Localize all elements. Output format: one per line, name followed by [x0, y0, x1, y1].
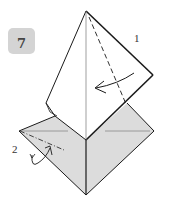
fold-label-2: 2	[12, 143, 18, 155]
fold-label-1: 1	[134, 32, 140, 44]
origami-diagram	[0, 0, 171, 209]
